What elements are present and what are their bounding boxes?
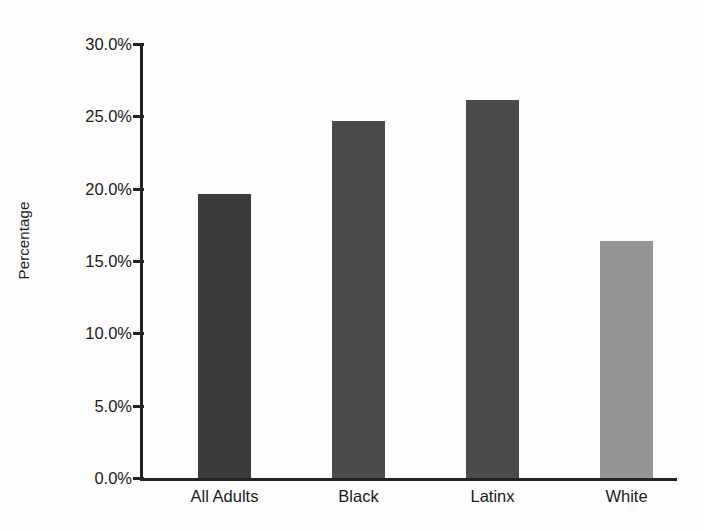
bar-white <box>600 241 653 478</box>
x-axis-tick-label: All Adults <box>155 487 295 506</box>
plot-area <box>140 44 677 478</box>
y-axis-tick-label: 10.0% <box>60 325 132 342</box>
y-axis-tick-label: 30.0% <box>60 36 132 53</box>
bar-chart: Percentage 0.0%5.0%10.0%15.0%20.0%25.0%3… <box>0 0 704 531</box>
x-axis-tick-label: White <box>557 487 697 506</box>
y-axis-tick-label: 20.0% <box>60 181 132 198</box>
x-axis-line <box>140 478 677 481</box>
y-axis-tick-label: 25.0% <box>60 108 132 125</box>
y-axis-tick-labels: 0.0%5.0%10.0%15.0%20.0%25.0%30.0% <box>58 0 132 531</box>
x-axis-tick-label: Black <box>289 487 429 506</box>
y-axis-title: Percentage <box>15 171 32 311</box>
y-axis-tick-label: 0.0% <box>60 470 132 487</box>
bar-latinx <box>466 100 519 478</box>
y-axis-tick-label: 15.0% <box>60 253 132 270</box>
x-axis-tick-labels: All AdultsBlackLatinxWhite <box>140 487 677 517</box>
bar-all-adults <box>198 194 251 478</box>
bar-black <box>332 121 385 478</box>
y-axis-tick-label: 5.0% <box>60 398 132 415</box>
x-axis-tick-label: Latinx <box>423 487 563 506</box>
